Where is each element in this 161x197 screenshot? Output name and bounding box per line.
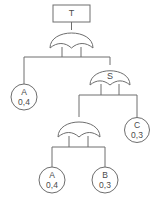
event-a-bottom[interactable]: A 0,4	[39, 167, 65, 193]
event-c[interactable]: C 0,3	[125, 118, 150, 143]
top-node-label: T	[69, 8, 75, 18]
gate-lower-or-shape	[58, 122, 100, 137]
gate-s-or[interactable]: S	[90, 71, 130, 85]
event-a-left-name: A	[21, 87, 27, 97]
event-a-left[interactable]: A 0,4	[11, 84, 37, 110]
event-a-bottom-name: A	[49, 170, 55, 180]
event-a-left-value: 0,4	[18, 97, 30, 107]
fault-tree-svg: T A 0,4 S	[0, 0, 161, 197]
event-b[interactable]: B 0,3	[92, 167, 118, 193]
event-c-value: 0,3	[131, 130, 143, 140]
gate-top-or-shape	[50, 33, 93, 48]
event-a-bottom-value: 0,4	[46, 180, 58, 190]
event-b-name: B	[102, 170, 108, 180]
fault-tree-diagram: T A 0,4 S	[0, 0, 161, 197]
gate-s-or-label: S	[107, 71, 113, 81]
event-b-value: 0,3	[99, 180, 111, 190]
event-c-name: C	[134, 120, 140, 130]
gate-top-or[interactable]	[50, 33, 93, 48]
top-node-t[interactable]: T	[53, 5, 90, 22]
gate-lower-or[interactable]	[58, 122, 100, 137]
